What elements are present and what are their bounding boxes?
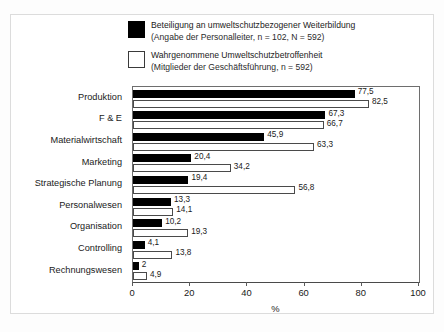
category-label-8: Rechnungswesen	[49, 265, 122, 275]
bar-value-label: 82,5	[372, 98, 388, 106]
legend-item-1: Wahrgenommene Umweltschutzbetroffenheit …	[128, 50, 322, 73]
bar-series-1	[133, 186, 295, 194]
legend-label-1-line2: (Mitglieder der Geschäftsführung, n = 59…	[151, 62, 313, 72]
legend-label-0-line1: Beteiligung an umweltschutzbezogener Wei…	[151, 20, 355, 30]
category-label-6: Organisation	[70, 221, 122, 231]
bar-series-0	[133, 154, 191, 162]
bar-series-1	[133, 164, 231, 172]
bar-value-label: 63,3	[317, 141, 333, 149]
bar-value-label: 67,3	[328, 110, 344, 118]
bar-value-label: 34,2	[234, 163, 250, 171]
bar-series-0	[133, 176, 188, 184]
bar-value-label: 13,8	[175, 249, 191, 257]
bar-series-0	[133, 241, 145, 249]
x-tick-label: 0	[129, 287, 134, 298]
legend-label-0-line2: (Angabe der Personalleiter, n = 102, N =…	[151, 32, 324, 42]
bar-group: 20,434,2	[133, 153, 419, 175]
x-tick	[418, 282, 419, 286]
bar-series-1	[133, 208, 173, 216]
legend-swatch-black-icon	[128, 21, 145, 38]
bar-group: 4,113,8	[133, 239, 419, 261]
x-tick-label: 20	[184, 287, 194, 298]
y-axis-category-labels: ProduktionF & EMaterialwirtschaftMarketi…	[0, 86, 128, 281]
plot-area: 77,582,567,366,745,963,320,434,219,456,8…	[132, 86, 420, 283]
legend-item-0: Beteiligung an umweltschutzbezogener Wei…	[128, 20, 355, 43]
bar-value-label: 56,8	[298, 184, 314, 192]
x-tick-label: 80	[356, 287, 366, 298]
bar-group: 67,366,7	[133, 110, 419, 132]
bar-value-label: 45,9	[267, 131, 283, 139]
x-tick-label: 100	[410, 287, 426, 298]
legend-label-0: Beteiligung an umweltschutzbezogener Wei…	[151, 20, 355, 43]
chart-legend: Beteiligung an umweltschutzbezogener Wei…	[128, 20, 428, 78]
bar-group: 10,219,3	[133, 218, 419, 240]
bar-value-label: 4,1	[148, 239, 159, 247]
x-tick-label: 40	[241, 287, 251, 298]
x-tick	[132, 282, 133, 286]
bar-value-label: 66,7	[327, 120, 343, 128]
bar-series-1	[133, 100, 369, 108]
x-tick	[361, 282, 362, 286]
bar-series-0	[133, 219, 162, 227]
bar-series-1	[133, 143, 314, 151]
bar-series-1	[133, 272, 147, 280]
bar-group: 19,456,8	[133, 174, 419, 196]
category-label-4: Strategische Planung	[35, 178, 122, 188]
category-label-2: Materialwirtschaft	[51, 135, 122, 145]
bar-series-1	[133, 251, 172, 259]
bar-group: 77,582,5	[133, 88, 419, 110]
bar-value-label: 19,4	[191, 174, 207, 182]
category-label-7: Controlling	[78, 243, 122, 253]
x-tick	[246, 282, 247, 286]
bar-series-1	[133, 229, 188, 237]
bar-value-label: 19,3	[191, 228, 207, 236]
x-tick	[304, 282, 305, 286]
bar-value-label: 4,9	[150, 271, 161, 279]
bar-series-1	[133, 121, 324, 129]
bar-series-0	[133, 90, 355, 98]
bar-group: 45,963,3	[133, 131, 419, 153]
bar-value-label: 10,2	[165, 218, 181, 226]
x-tick-label: 60	[298, 287, 308, 298]
bar-value-label: 14,1	[176, 206, 192, 214]
bar-value-label: 2	[142, 261, 147, 269]
chart-figure: Beteiligung an umweltschutzbezogener Wei…	[0, 0, 444, 332]
category-label-0: Produktion	[78, 92, 122, 102]
bar-series-0	[133, 262, 139, 270]
category-label-5: Personalwesen	[59, 200, 122, 210]
bar-value-label: 20,4	[194, 153, 210, 161]
category-label-3: Marketing	[82, 157, 122, 167]
bar-value-label: 13,3	[174, 196, 190, 204]
bar-series-0	[133, 133, 264, 141]
bar-series-0	[133, 111, 325, 119]
bar-group: 24,9	[133, 261, 419, 283]
bar-group: 13,314,1	[133, 196, 419, 218]
legend-swatch-white-icon	[128, 51, 145, 68]
bar-series-0	[133, 198, 171, 206]
legend-label-1: Wahrgenommene Umweltschutzbetroffenheit …	[151, 50, 322, 73]
x-tick	[189, 282, 190, 286]
x-axis-title: %	[132, 303, 419, 314]
legend-label-1-line1: Wahrgenommene Umweltschutzbetroffenheit	[151, 50, 322, 60]
category-label-1: F & E	[99, 113, 122, 123]
bar-value-label: 77,5	[358, 88, 374, 96]
